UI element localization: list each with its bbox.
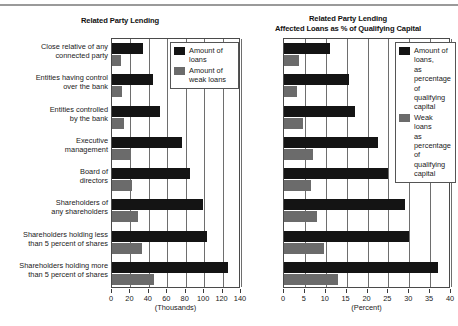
x-axis-tick-label: 120 [215,294,227,303]
bar [112,211,138,222]
x-axis-tick [129,289,130,293]
category-label: Executive management [2,136,108,154]
left-chart-panel: Related Party Lending Amount of loansAmo… [0,0,240,326]
x-axis-tick-label: 10 [321,294,329,303]
gridline [388,39,389,287]
right-chart-title-line2: Affected Loans as % of Qualifying Capita… [275,24,421,34]
legend-swatch [174,47,185,55]
category-label: Shareholders holding more than 5 percent… [2,261,108,279]
x-axis-tick-label: 35 [425,294,433,303]
bar [284,137,378,148]
legend-item: Amount of loans, as percentage of qualif… [399,46,451,112]
bar [112,262,228,273]
bar [112,199,203,210]
legend-swatch [174,67,185,75]
x-axis-tick-label: 100 [197,294,209,303]
bar [284,106,355,117]
x-axis-tick-label: 5 [302,294,306,303]
x-axis-tick [185,289,186,293]
x-axis-tick-label: 20 [362,294,370,303]
bar [112,231,207,242]
bar [284,231,409,242]
bar [284,86,297,97]
legend-label: Amount of weak loans [189,66,234,85]
right-chart-panel: Related Party Lending Affected Loans as … [240,0,458,326]
bar [112,74,153,85]
x-axis-tick-label: 0 [109,294,113,303]
gridline [368,39,369,287]
x-axis-tick-label: 60 [162,294,170,303]
category-label: Entities having control over the bank [2,73,108,91]
x-axis-tick [304,289,305,293]
x-axis-tick-label: 30 [404,294,412,303]
x-axis-tick [166,289,167,293]
bar [112,137,182,148]
right-chart-title: Related Party Lending Affected Loans as … [275,14,421,34]
bar [284,211,317,222]
x-axis-tick [429,289,430,293]
left-chart-plot-area: Amount of loansAmount of weak loans [111,38,240,288]
bar [112,43,143,54]
left-chart-x-axis-units: (Thousands) [155,303,197,312]
bar [284,199,405,210]
bar [284,180,311,191]
category-label: Shareholders holding less than 5 percent… [2,230,108,248]
x-axis-tick [450,289,451,293]
bar [284,118,303,129]
legend-swatch [399,47,410,55]
bar [112,180,132,191]
x-axis-tick [283,289,284,293]
bar [112,106,160,117]
x-axis-tick [222,289,223,293]
legend-label: Amount of loans, as percentage of qualif… [414,46,451,112]
x-axis-tick [148,289,149,293]
x-axis-tick [203,289,204,293]
bar [284,149,313,160]
x-axis-tick [325,289,326,293]
bar [284,262,438,273]
x-axis-tick [367,289,368,293]
bar [284,274,338,285]
x-axis-tick-label: 15 [342,294,350,303]
legend-swatch [399,114,410,122]
category-label: Close relative of any connected party [2,42,108,60]
category-label: Board of directors [2,167,108,185]
right-chart-title-line1: Related Party Lending [309,14,387,23]
x-axis-tick-label: 0 [281,294,285,303]
figure-root: Related Party Lending Amount of loansAmo… [0,0,458,326]
bar [112,86,122,97]
bar [284,168,388,179]
legend-label: Amount of loans [189,46,234,65]
legend-label: Weak loans as percentage of qualifying c… [414,113,451,179]
category-label: Shareholders of any shareholders [2,198,108,216]
x-axis-tick-label: 20 [125,294,133,303]
x-axis-tick [387,289,388,293]
bar [284,243,324,254]
left-chart-title: Related Party Lending [81,16,159,26]
bar [112,168,190,179]
right-chart-plot-area: Amount of loans, as percentage of qualif… [283,38,450,288]
legend-item: Weak loans as percentage of qualifying c… [399,113,451,179]
x-axis-tick [408,289,409,293]
bar [284,74,349,85]
gridline [167,39,168,287]
bar [112,55,121,66]
x-axis-tick-label: 25 [383,294,391,303]
legend-item: Amount of loans [174,46,234,65]
x-axis-tick-label: 80 [181,294,189,303]
bar [112,149,130,160]
bar [112,274,154,285]
right-chart-legend: Amount of loans, as percentage of qualif… [395,42,456,183]
legend-item: Amount of weak loans [174,66,234,85]
right-chart-x-axis-units: (Percent) [351,303,381,312]
bar [112,118,124,129]
category-label: Entities controlled by the bank [2,105,108,123]
bar [284,43,330,54]
x-axis-tick-label: 40 [144,294,152,303]
left-chart-legend: Amount of loansAmount of weak loans [170,42,239,89]
x-axis-tick-label: 40 [446,294,454,303]
x-axis-tick [346,289,347,293]
bar [112,243,142,254]
x-axis-tick [111,289,112,293]
bar [284,55,299,66]
